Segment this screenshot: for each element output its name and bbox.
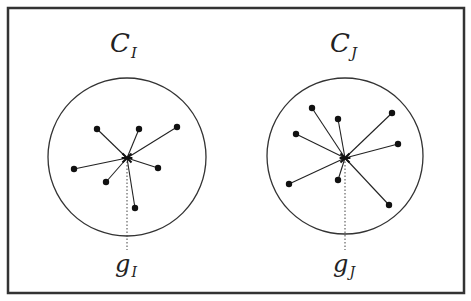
point-edge xyxy=(127,158,135,208)
cluster-label: CJ xyxy=(330,28,358,62)
data-point xyxy=(103,179,109,185)
data-point xyxy=(132,205,138,211)
data-point xyxy=(293,131,299,137)
data-point xyxy=(155,165,161,171)
diagram-frame xyxy=(8,8,464,293)
data-point xyxy=(136,126,142,132)
data-point xyxy=(335,177,341,183)
data-point xyxy=(389,110,395,116)
data-point xyxy=(386,202,392,208)
cluster-j: CJgJ xyxy=(267,28,423,280)
cluster-i: CIgI xyxy=(48,28,206,280)
cluster-diagram: CIgICJgJ xyxy=(0,0,471,301)
cluster-label: CI xyxy=(110,28,138,62)
point-edge xyxy=(127,127,177,158)
data-point xyxy=(286,181,292,187)
centroid-label: gJ xyxy=(333,250,356,280)
data-point xyxy=(174,124,180,130)
data-point xyxy=(395,141,401,147)
data-point xyxy=(309,105,315,111)
point-edge xyxy=(345,158,389,205)
point-edge xyxy=(127,158,158,168)
centroid-star-icon xyxy=(340,154,351,163)
data-point xyxy=(71,166,77,172)
data-point xyxy=(94,126,100,132)
data-point xyxy=(335,116,341,122)
centroid-label: gI xyxy=(115,250,137,280)
